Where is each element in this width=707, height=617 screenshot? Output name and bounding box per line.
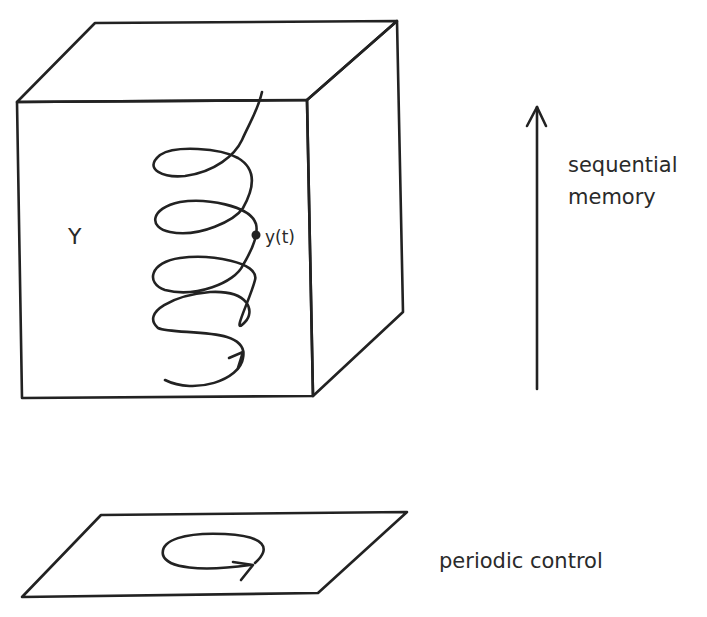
helix-trajectory (153, 92, 262, 386)
diagram-canvas: Y y(t) sequential memory periodic contro… (0, 0, 707, 617)
cube-side-face (307, 21, 403, 396)
cube-top-face (17, 21, 397, 102)
loop-arrowhead-icon (233, 562, 253, 580)
state-space-cube (17, 21, 403, 398)
state-point-label: y(t) (265, 227, 295, 247)
control-plane-label: periodic control (439, 549, 603, 573)
axis-label-line2: memory (568, 185, 656, 209)
cube-front-face (17, 100, 313, 398)
sequential-memory-arrow (527, 107, 546, 389)
state-point-marker (252, 231, 261, 240)
axis-label-line1: sequential (568, 153, 678, 177)
state-space-label: Y (67, 224, 82, 249)
plane-parallelogram (22, 512, 407, 597)
helix-curve (153, 92, 262, 386)
control-plane (22, 512, 407, 597)
